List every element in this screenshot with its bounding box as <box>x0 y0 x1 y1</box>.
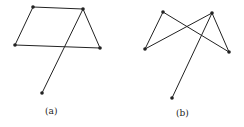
vertex <box>227 50 231 54</box>
edge <box>83 9 100 48</box>
vertex <box>31 5 35 9</box>
edge <box>42 9 83 93</box>
edge <box>172 13 212 98</box>
vertex <box>170 96 174 100</box>
vertex <box>161 10 165 14</box>
edge <box>15 7 33 45</box>
vertex <box>81 7 85 11</box>
vertex <box>210 11 214 15</box>
edge <box>212 13 229 52</box>
edge <box>15 45 100 48</box>
graph-diagram <box>0 0 244 127</box>
edge <box>33 7 83 9</box>
graph-a <box>13 5 102 95</box>
vertex <box>13 43 17 47</box>
vertex <box>40 91 44 95</box>
edge <box>145 13 212 49</box>
caption-b: (b) <box>176 108 189 118</box>
graph-b <box>143 10 231 100</box>
caption-a: (a) <box>45 106 57 116</box>
edge <box>145 12 163 49</box>
vertex <box>98 46 102 50</box>
vertex <box>143 47 147 51</box>
